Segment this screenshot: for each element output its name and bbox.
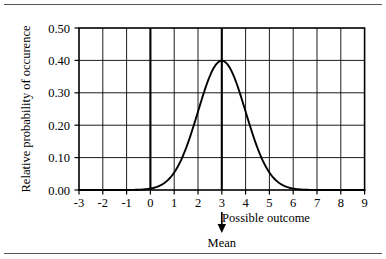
- x-tick-label: 3: [219, 196, 225, 210]
- x-tick-label: 5: [266, 196, 272, 210]
- y-tick-label: 0.20: [48, 119, 70, 133]
- x-tick-label: 8: [338, 196, 344, 210]
- grid-vertical-emphasized: [150, 28, 221, 190]
- x-tick-label: 0: [147, 196, 153, 210]
- x-tick-label: 7: [314, 196, 320, 210]
- x-tick-label: 4: [242, 196, 249, 210]
- chart-svg: 0.50 0.40 0.30 0.20 0.10 0.00 -3 -2 -1 0…: [0, 0, 386, 259]
- y-tick-labels: 0.50 0.40 0.30 0.20 0.10 0.00: [48, 22, 70, 198]
- x-axis-title: Possible outcome: [222, 211, 310, 225]
- x-tick-label: 1: [171, 196, 177, 210]
- mean-arrow-head-icon: [218, 224, 226, 233]
- x-tick-label: -1: [121, 196, 131, 210]
- y-tick-label: 0.40: [48, 54, 70, 68]
- mean-label: Mean: [208, 236, 237, 250]
- distribution-chart: 0.50 0.40 0.30 0.20 0.10 0.00 -3 -2 -1 0…: [0, 0, 386, 259]
- x-tick-label: -3: [74, 196, 84, 210]
- x-tick-label: -2: [98, 196, 108, 210]
- y-tick-label: 0.10: [48, 151, 70, 165]
- y-tick-label: 0.00: [48, 184, 70, 198]
- y-tick-label: 0.30: [48, 86, 70, 100]
- x-tick-label: 2: [195, 196, 201, 210]
- y-tick-label: 0.50: [48, 22, 70, 36]
- x-tick-label: 9: [361, 196, 367, 210]
- y-axis-title: Relative probability of occurence: [19, 25, 33, 192]
- x-tick-label: 6: [290, 196, 296, 210]
- x-tick-labels: -3 -2 -1 0 1 2 3 4 5 6 7 8 9: [74, 196, 368, 210]
